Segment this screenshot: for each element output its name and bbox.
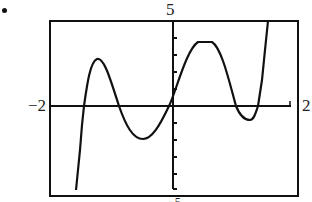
y-max-label: 5 — [166, 1, 175, 18]
y-min-label: −5 — [168, 196, 181, 202]
x-min-label: −2 — [28, 97, 46, 114]
function-graph — [0, 0, 312, 202]
x-max-label: 2 — [302, 97, 311, 114]
